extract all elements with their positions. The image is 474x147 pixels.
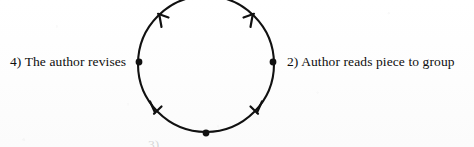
node-dot-left: [136, 59, 143, 66]
cycle-label-step-2: 2) Author reads piece to group: [287, 55, 455, 69]
node-dot-bottom: [203, 130, 210, 137]
arrow-top-left-icon: [158, 14, 169, 27]
cycle-diagram: [0, 0, 474, 147]
cycle-label-step-3-clipped: 3): [148, 139, 234, 147]
node-dot-right: [270, 59, 277, 66]
arrow-bottom-left-icon: [150, 102, 162, 114]
cycle-label-step-3-text: 3): [148, 139, 234, 147]
arrow-bottom-right-icon: [251, 102, 263, 114]
cycle-circle: [138, 0, 274, 132]
figure-canvas: 4) The author revises 2) Author reads pi…: [0, 0, 474, 147]
cycle-label-step-4: 4) The author revises: [10, 55, 126, 69]
arrow-top-right-icon: [244, 14, 255, 27]
